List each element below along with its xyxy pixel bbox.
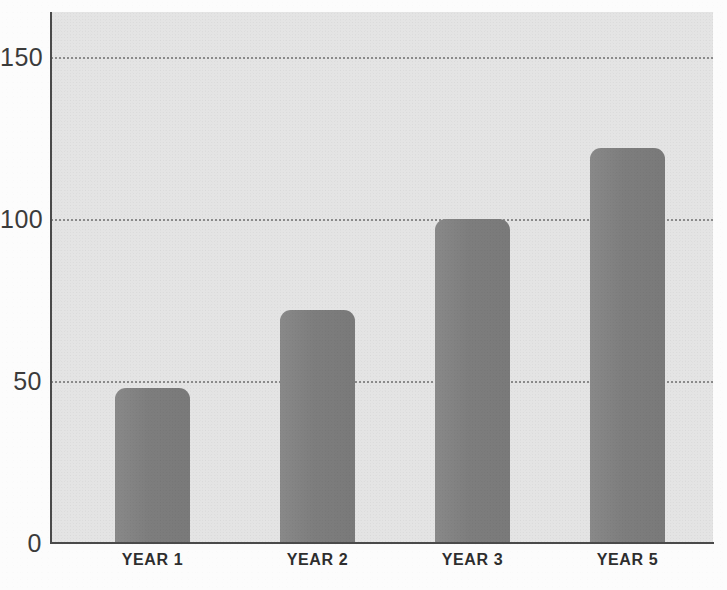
- y-tick-label-50: 50: [0, 369, 42, 394]
- bar-year-1[interactable]: [115, 388, 190, 543]
- y-tick-label-100: 100: [0, 207, 42, 232]
- y-axis-line: [50, 12, 52, 544]
- y-tick-label-150: 150: [0, 45, 42, 70]
- plot-area: [51, 12, 713, 543]
- gridline-150: [51, 57, 713, 59]
- bar-year-5[interactable]: [590, 148, 665, 543]
- x-tick-label-year-5: YEAR 5: [558, 551, 698, 569]
- bar-year-3[interactable]: [435, 219, 510, 543]
- bar-shading: [590, 148, 665, 543]
- x-axis-line: [50, 542, 714, 544]
- x-tick-label-year-1: YEAR 1: [83, 551, 223, 569]
- bar-year-2[interactable]: [280, 310, 355, 543]
- bar-shading: [115, 388, 190, 543]
- chart-figure: 150 100 50 0 YEAR 1 YEAR 2 YEAR 3 YEAR 5: [0, 0, 727, 590]
- x-tick-label-year-3: YEAR 3: [403, 551, 543, 569]
- bar-shading: [280, 310, 355, 543]
- x-tick-label-year-2: YEAR 2: [248, 551, 388, 569]
- bar-shading: [435, 219, 510, 543]
- y-tick-label-0: 0: [0, 531, 42, 556]
